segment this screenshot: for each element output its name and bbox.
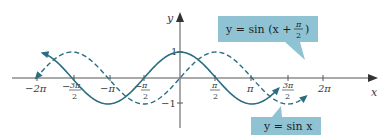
svg-text:2: 2 bbox=[285, 92, 290, 101]
svg-text:π: π bbox=[141, 81, 148, 90]
callout-sin-x: y = sin x bbox=[251, 106, 321, 135]
svg-text:2: 2 bbox=[143, 92, 148, 101]
svg-text:π: π bbox=[211, 81, 218, 90]
svg-text:2: 2 bbox=[72, 92, 77, 101]
x-tick-label-pi: π bbox=[246, 83, 254, 94]
callout-sin-x-plus-pi-over-2: y = sin (x + π 2 ) bbox=[218, 16, 318, 60]
svg-text:): ) bbox=[305, 23, 309, 36]
svg-text:2: 2 bbox=[213, 92, 218, 101]
y-axis-arrow-icon bbox=[176, 12, 184, 22]
x-axis-arrow-icon bbox=[368, 74, 378, 82]
x-tick-label-neg-2pi: −2π bbox=[25, 83, 47, 94]
y-axis-label: y bbox=[166, 12, 174, 25]
svg-text:π: π bbox=[295, 20, 302, 29]
sine-graph: y x 1 −1 −2π − 3π 2 −π − π 2 π 2 π 3π bbox=[0, 0, 388, 137]
svg-text:y = sin x: y = sin x bbox=[263, 120, 313, 133]
svg-text:2: 2 bbox=[296, 31, 301, 40]
svg-text:3π: 3π bbox=[283, 81, 294, 90]
x-tick-label-neg-pi2: − π 2 bbox=[134, 81, 150, 101]
y-tick-label-neg1: −1 bbox=[161, 98, 176, 109]
svg-text:y = sin (x +: y = sin (x + bbox=[225, 23, 291, 36]
x-tick-label-3pi2: 3π 2 bbox=[282, 81, 294, 101]
x-tick-label-pi2: π 2 bbox=[210, 81, 220, 101]
dashed-curve-arrow-right-icon bbox=[299, 95, 307, 103]
x-axis-label: x bbox=[371, 86, 378, 99]
y-tick-label-1: 1 bbox=[171, 46, 177, 57]
x-tick-label-2pi: 2π bbox=[317, 83, 331, 94]
curve-arrow-left-icon bbox=[41, 51, 50, 58]
